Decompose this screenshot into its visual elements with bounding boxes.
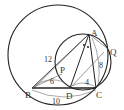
label-a: A bbox=[91, 28, 98, 38]
length-bp: 6 bbox=[50, 77, 54, 86]
segment-ac bbox=[89, 34, 96, 88]
angle-mark-1 bbox=[83, 44, 85, 46]
geometry-diagram: A B C D P Q 12 6 4 8 10 bbox=[0, 0, 124, 110]
label-b: B bbox=[25, 90, 31, 100]
label-p: P bbox=[60, 65, 65, 75]
dimension-dc-arc bbox=[72, 83, 94, 86]
segment-bp bbox=[32, 74, 62, 88]
label-c: C bbox=[96, 90, 102, 100]
length-ab: 12 bbox=[44, 55, 52, 64]
label-d: D bbox=[66, 91, 73, 101]
length-ac: 8 bbox=[99, 61, 103, 70]
circumcircle-abc bbox=[8, 5, 108, 105]
length-bc: 10 bbox=[52, 97, 60, 106]
angle-mark-2 bbox=[87, 46, 89, 48]
label-q: Q bbox=[110, 47, 117, 57]
length-dc: 4 bbox=[85, 78, 89, 87]
